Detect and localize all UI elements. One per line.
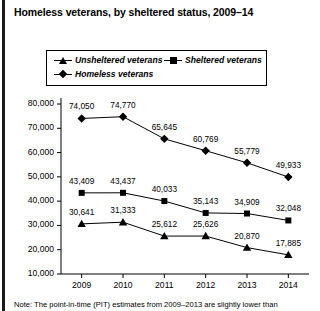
data-label-unsheltered-veterans-2010: 31,333	[103, 205, 143, 215]
data-label-unsheltered-veterans-2014: 17,885	[268, 238, 308, 248]
data-label-unsheltered-veterans-2012: 25,626	[186, 219, 226, 229]
data-label-sheltered-veterans-2010: 43,437	[103, 176, 143, 186]
x-axis-tick-2012: 2012	[186, 280, 226, 290]
data-label-homeless-veterans-2013: 55,779	[227, 146, 267, 156]
y-axis-tick-50000: 50,000	[10, 171, 54, 181]
chart-plot-area: 10,00020,00030,00040,00050,00060,00070,0…	[0, 0, 320, 311]
data-label-sheltered-veterans-2012: 35,143	[186, 196, 226, 206]
x-axis-tick-2013: 2013	[227, 280, 267, 290]
data-label-homeless-veterans-2011: 65,645	[144, 122, 184, 132]
y-axis-tick-70000: 70,000	[10, 122, 54, 132]
x-axis-tick-2014: 2014	[268, 280, 308, 290]
data-label-homeless-veterans-2010: 74,770	[103, 100, 143, 110]
x-axis-tick-2011: 2011	[144, 280, 184, 290]
data-label-unsheltered-veterans-2013: 20,870	[227, 231, 267, 241]
data-label-homeless-veterans-2012: 60,769	[186, 134, 226, 144]
chart-note: Note: The point-in-time (PIT) estimates …	[14, 300, 320, 309]
data-label-sheltered-veterans-2011: 40,033	[144, 184, 184, 194]
y-axis-tick-60000: 60,000	[10, 147, 54, 157]
data-label-sheltered-veterans-2009: 43,409	[62, 176, 102, 186]
y-axis-tick-40000: 40,000	[10, 195, 54, 205]
y-axis-tick-30000: 30,000	[10, 219, 54, 229]
data-label-homeless-veterans-2009: 74,050	[62, 101, 102, 111]
y-axis-tick-10000: 10,000	[10, 268, 54, 278]
data-label-sheltered-veterans-2013: 34,909	[227, 197, 267, 207]
data-label-unsheltered-veterans-2011: 25,612	[144, 219, 184, 229]
data-label-homeless-veterans-2014: 49,933	[268, 160, 308, 170]
y-axis-tick-20000: 20,000	[10, 244, 54, 254]
x-axis-tick-2009: 2009	[62, 280, 102, 290]
x-axis-tick-2010: 2010	[103, 280, 143, 290]
data-label-unsheltered-veterans-2009: 30,641	[62, 207, 102, 217]
data-label-sheltered-veterans-2014: 32,048	[268, 203, 308, 213]
y-axis-tick-80000: 80,000	[10, 98, 54, 108]
